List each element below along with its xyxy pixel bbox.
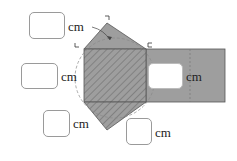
hatched-rectangle (84, 49, 146, 102)
corner-mark-right (148, 43, 152, 47)
answer-box-inner[interactable] (148, 63, 183, 89)
unit-label-inner: cm (186, 70, 202, 83)
answer-box-bottom-right[interactable] (126, 118, 152, 145)
answer-box-top[interactable] (29, 12, 65, 39)
answer-box-bottom-left[interactable] (43, 110, 70, 137)
unit-label-bottom-left: cm (73, 117, 89, 130)
unit-label-top: cm (68, 20, 84, 33)
corner-mark-left (75, 43, 79, 47)
unit-label-bottom-right: cm (155, 126, 171, 139)
top-triangle (84, 23, 146, 49)
unit-label-left: cm (61, 70, 77, 83)
corner-mark-top (105, 16, 109, 20)
answer-box-left[interactable] (21, 63, 58, 89)
